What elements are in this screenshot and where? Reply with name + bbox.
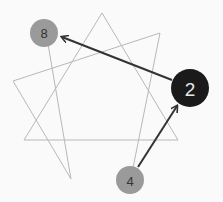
node-2[interactable]: 2 [171, 69, 209, 107]
node-2-label: 2 [185, 79, 196, 100]
enneagram-diagram: 8 2 4 [0, 0, 223, 202]
node-8[interactable]: 8 [30, 19, 58, 47]
diagram-svg: 8 2 4 [0, 0, 223, 202]
star-line [133, 33, 160, 168]
arrow-2-to-8 [62, 37, 172, 80]
arrows [62, 37, 177, 167]
node-4[interactable]: 4 [116, 166, 144, 194]
node-8-label: 8 [40, 26, 47, 41]
node-4-label: 4 [126, 174, 133, 189]
